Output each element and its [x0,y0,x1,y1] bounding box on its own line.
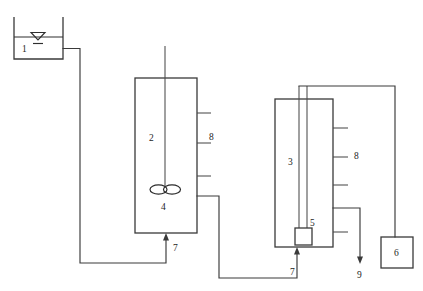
stirred-reactor-body [135,78,197,233]
label-sampling-ports-stirred: 8 [209,132,214,142]
label-inlet-stirred: 7 [173,243,178,253]
label-column-reactor: 3 [288,157,293,167]
label-effluent-outlet: 9 [357,270,362,280]
flow-diagram-canvas: 1 2 3 4 5 6 7 7 8 8 9 [0,0,423,291]
inlet-arrow-reactor3-icon [294,247,300,255]
inlet-arrow-reactor2-icon [163,233,169,241]
pipe-riser-to-collector [299,86,395,237]
stirred-reactor-group [135,46,211,233]
label-impeller: 4 [161,202,166,212]
pipe-reactor2-to-reactor3 [197,196,297,278]
label-sampling-ports-column: 8 [354,151,359,161]
impeller-blade-right [164,185,181,194]
label-stirred-reactor: 2 [149,133,154,143]
label-collection-unit: 6 [394,248,399,258]
label-feed-tank: 1 [22,44,27,54]
pipe-tank1-to-reactor2 [63,49,166,264]
water-level-triangle-icon [31,33,45,41]
impeller-blade-left [150,185,167,194]
label-distributor: 5 [310,218,315,228]
effluent-arrow-icon [357,257,363,265]
distributor-box [295,228,312,245]
column-reactor-body [275,99,333,247]
label-inlet-column: 7 [290,267,295,277]
process-flow-diagram: 1 2 3 4 5 6 7 7 8 8 9 [0,0,423,291]
